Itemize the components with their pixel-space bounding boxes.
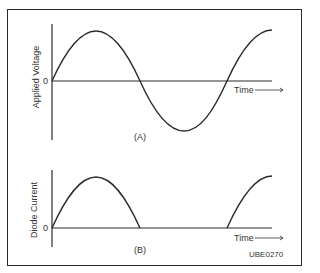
panel-a-zero-label: 0 [43, 76, 48, 86]
panel-b-time-label: Time [234, 233, 254, 243]
diode-current-curve-1 [52, 177, 140, 228]
panel-b-time-arrow [255, 236, 283, 240]
panel-a-time-arrow [255, 88, 283, 92]
panel-b-y-label: Diode Current [29, 179, 39, 241]
panel-a-time-label: Time [234, 85, 254, 95]
figure-id: UBE0270 [249, 250, 283, 259]
panel-a-caption: (A) [134, 132, 146, 142]
panel-b-zero-label: 0 [43, 223, 48, 233]
diode-current-curve-2 [227, 176, 272, 228]
panel-b-caption: (B) [134, 245, 146, 255]
panel-a-y-label: Applied Voltage [31, 42, 41, 112]
panel-a-axes [52, 24, 272, 140]
